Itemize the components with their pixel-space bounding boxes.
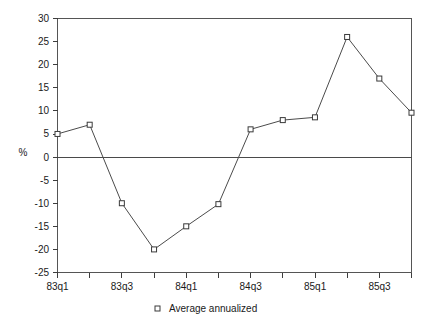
- y-tick-label: 10: [38, 105, 50, 116]
- y-tick-label: 25: [38, 36, 50, 47]
- y-tick-label: -25: [35, 267, 50, 278]
- data-point-marker: [216, 202, 221, 207]
- data-point-marker: [152, 247, 157, 252]
- data-point-marker: [248, 127, 253, 132]
- data-point-marker: [280, 118, 285, 123]
- y-tick-label: 30: [38, 13, 50, 24]
- legend: Average annualized: [155, 303, 257, 314]
- series-average-annualized: [55, 34, 414, 251]
- data-point-marker: [55, 131, 60, 136]
- y-tick-group: [53, 19, 58, 273]
- x-tick-label: 85q3: [368, 281, 391, 292]
- y-tick-label: -5: [40, 175, 49, 186]
- legend-entry-label: Average annualized: [169, 303, 257, 314]
- x-tick-label: 85q1: [304, 281, 327, 292]
- x-tick-group: [58, 273, 412, 278]
- y-axis-title: %: [19, 147, 28, 158]
- data-point-marker: [87, 122, 92, 127]
- x-tick-label: 84q1: [175, 281, 198, 292]
- data-point-marker: [345, 34, 350, 39]
- y-tick-label: 15: [38, 82, 50, 93]
- y-tick-label: -10: [35, 198, 50, 209]
- plot-frame: [58, 19, 412, 273]
- chart-container: 30 25 20 15 10 5 0 -5 -10 -15 -20 -25 %: [0, 0, 442, 330]
- y-tick-label: 0: [43, 152, 49, 163]
- series-line: [58, 37, 412, 249]
- y-tick-label: 20: [38, 59, 50, 70]
- data-point-marker: [312, 115, 317, 120]
- open-square-marker-icon: [155, 306, 160, 311]
- data-point-marker: [409, 110, 414, 115]
- data-point-marker: [377, 76, 382, 81]
- y-tick-label: -15: [35, 221, 50, 232]
- data-point-marker: [119, 201, 124, 206]
- line-chart: 30 25 20 15 10 5 0 -5 -10 -15 -20 -25 %: [0, 0, 442, 330]
- x-axis: 83q1 83q3 84q1 84q3 85q1 85q3: [46, 273, 411, 293]
- x-tick-label: 83q3: [111, 281, 134, 292]
- y-tick-label: -20: [35, 244, 50, 255]
- x-tick-label: 83q1: [46, 281, 69, 292]
- series-marker-group: [55, 34, 414, 251]
- x-tick-label: 84q3: [240, 281, 263, 292]
- data-point-marker: [184, 224, 189, 229]
- y-axis: 30 25 20 15 10 5 0 -5 -10 -15 -20 -25 %: [19, 13, 58, 278]
- y-tick-label: 5: [43, 128, 49, 139]
